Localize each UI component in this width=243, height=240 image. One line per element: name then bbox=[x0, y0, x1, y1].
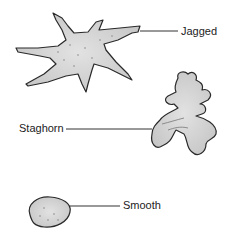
jagged-label: Jagged bbox=[181, 25, 217, 37]
staghorn-stone bbox=[152, 72, 217, 155]
smooth-label: Smooth bbox=[123, 199, 161, 211]
jagged-stone bbox=[16, 13, 140, 92]
smooth-stone bbox=[29, 197, 70, 227]
staghorn-label: Staghorn bbox=[19, 122, 64, 134]
